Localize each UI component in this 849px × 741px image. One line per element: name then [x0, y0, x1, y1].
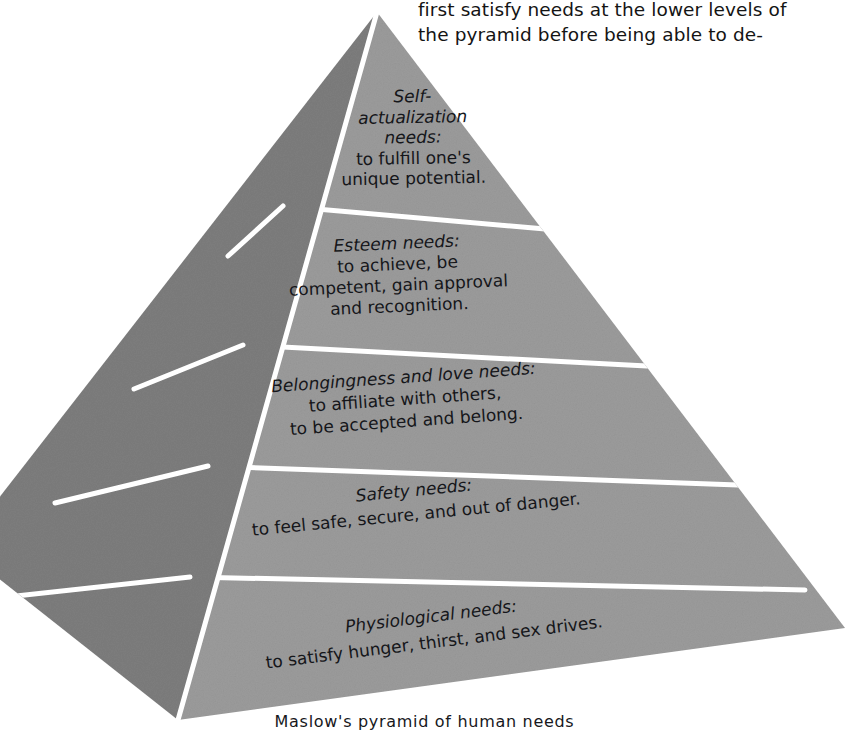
- pyramid-svg: [0, 0, 849, 741]
- figure-caption: Maslow's pyramid of human needs: [0, 712, 849, 731]
- maslow-pyramid: Self- actualization needs: to fulfill on…: [0, 0, 849, 741]
